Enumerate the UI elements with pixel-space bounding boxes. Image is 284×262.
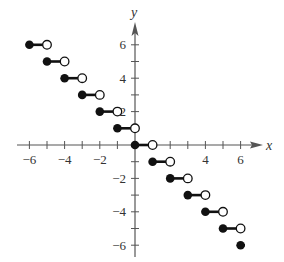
- step-segment: [60, 74, 86, 83]
- open-endpoint-icon: [60, 57, 69, 66]
- step-segment: [184, 191, 210, 200]
- step-segment: [166, 174, 192, 183]
- closed-endpoint-icon: [201, 208, 210, 217]
- y-axis-label: y: [129, 5, 138, 20]
- closed-endpoint-icon: [25, 41, 34, 50]
- open-endpoint-icon: [236, 224, 245, 233]
- step-segment: [131, 141, 157, 150]
- open-endpoint-icon: [166, 157, 175, 166]
- open-endpoint-icon: [131, 124, 140, 133]
- open-endpoint-icon: [78, 74, 87, 83]
- closed-endpoint-icon: [43, 57, 52, 66]
- axes: [17, 22, 263, 257]
- x-axis-label: x: [265, 138, 273, 153]
- step-segment: [25, 41, 51, 50]
- step-segment: [96, 107, 122, 116]
- open-endpoint-icon: [148, 141, 157, 150]
- closed-endpoint-icon: [219, 224, 228, 233]
- closed-endpoint-icon: [166, 174, 175, 183]
- x-tick-label: 4: [202, 152, 209, 167]
- x-tick-label: 6: [237, 152, 244, 167]
- step-segment: [219, 224, 245, 233]
- y-tick-label: −2: [112, 171, 126, 186]
- step-segment: [148, 157, 174, 166]
- step-segment: [236, 241, 245, 250]
- x-tick-label: −4: [58, 152, 72, 167]
- step-function-chart: −6−4−246642−2−4−6 x y: [0, 0, 284, 262]
- closed-endpoint-icon: [131, 141, 140, 150]
- closed-endpoint-icon: [184, 191, 193, 200]
- open-endpoint-icon: [201, 191, 210, 200]
- y-tick-label: 6: [120, 37, 127, 52]
- open-endpoint-icon: [113, 107, 122, 116]
- closed-endpoint-icon: [78, 91, 87, 100]
- step-segment: [201, 208, 227, 217]
- closed-endpoint-icon: [96, 107, 105, 116]
- open-endpoint-icon: [96, 91, 105, 100]
- step-segment: [43, 57, 69, 66]
- closed-endpoint-icon: [148, 157, 157, 166]
- x-tick-label: −2: [93, 152, 107, 167]
- step-segment: [78, 91, 104, 100]
- x-tick-label: −6: [22, 152, 36, 167]
- y-tick-label: −4: [112, 204, 126, 219]
- closed-endpoint-icon: [236, 241, 245, 250]
- y-tick-label: 4: [120, 71, 127, 86]
- closed-endpoint-icon: [113, 124, 122, 133]
- open-endpoint-icon: [219, 208, 228, 217]
- step-segment: [113, 124, 139, 133]
- y-tick-label: −6: [112, 238, 126, 253]
- open-endpoint-icon: [184, 174, 193, 183]
- closed-endpoint-icon: [60, 74, 69, 83]
- open-endpoint-icon: [43, 41, 52, 50]
